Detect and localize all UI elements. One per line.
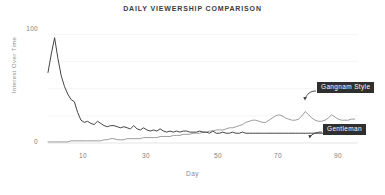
legend-gentleman[interactable]: Gentleman <box>323 124 366 135</box>
chart-container: DAILY VIEWERSHIP COMPARISON Interest Ove… <box>0 0 385 195</box>
gangnam-style-arrow-line <box>305 91 316 99</box>
plot-area <box>0 0 385 195</box>
gentleman-arrow-head <box>308 135 312 138</box>
gangnam-style-arrow-head <box>303 97 307 101</box>
gentleman-arrow-line <box>310 132 322 137</box>
series-lines <box>48 38 355 142</box>
series-line-gentleman <box>48 38 355 134</box>
gridlines <box>48 34 358 143</box>
annotation-arrows <box>303 91 322 138</box>
legend-gangnam-style[interactable]: Gangnam Style <box>317 82 374 93</box>
